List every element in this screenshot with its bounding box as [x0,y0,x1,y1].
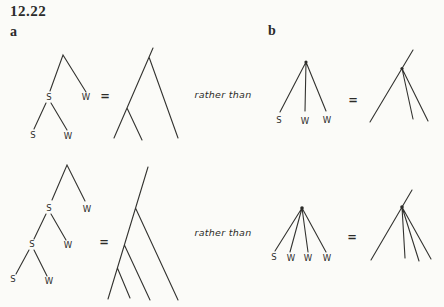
node-label-w: W [64,131,73,141]
tree-b-bottom-schematic [371,190,431,261]
node-label-s: S [10,274,15,284]
equals-sign: = [347,230,357,244]
node-label-w: W [323,115,332,125]
node-dot [304,60,307,63]
node-label-w: W [45,276,54,286]
node-label-s: S [46,203,51,213]
node-dot [400,67,403,70]
rather-than-text: rather than [194,227,251,238]
scanned-figure-page: 12.22 a b S W S W = rather than S W W = [0,0,444,307]
node-label-w: W [301,116,310,126]
tree-edges [114,48,178,140]
node-label-s: S [29,239,34,249]
rather-than-text: rather than [194,89,251,100]
tree-b-top-schematic [370,50,428,122]
node-dot [400,205,404,209]
node-label-w: W [304,253,313,263]
node-label-w: W [82,92,91,102]
node-dot [300,206,304,210]
node-label-s: S [271,252,276,262]
tree-edges [34,55,86,130]
node-label-w: W [83,204,92,214]
equals-sign: = [348,93,358,107]
tree-a-bottom-schematic [108,167,178,300]
tree-diagram-svg: S W S W = rather than S W W = S [0,0,444,307]
tree-edges [16,165,85,276]
node-label-s: S [30,130,35,140]
tree-a-top-schematic [114,48,178,140]
tree-edges [370,50,428,122]
tree-a-top-labeled: S W S W [30,55,91,141]
tree-a-bottom-labeled: S W S W S W [10,165,92,286]
node-label-s: S [46,92,51,102]
node-label-s: S [276,115,281,125]
equals-sign: = [99,235,109,249]
node-label-w: W [64,240,73,250]
tree-edges [371,190,431,261]
tree-edges [108,167,178,300]
tree-edges [275,208,326,252]
tree-b-bottom-labeled: S W W W [271,206,332,263]
node-label-w: W [323,253,332,263]
equals-sign: = [100,89,110,103]
node-label-w: W [287,253,296,263]
tree-b-top-labeled: S W W [276,60,332,126]
tree-edges [280,62,326,112]
